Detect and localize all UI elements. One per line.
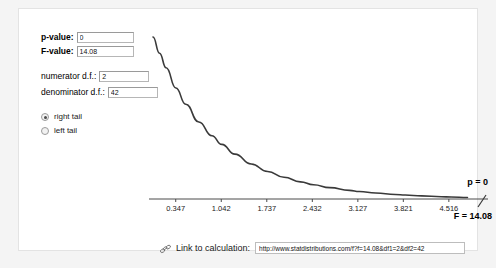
x-axis-ticks: 0.3471.0421.7372.4323.1273.8214.516: [166, 199, 458, 213]
calculation-url-input[interactable]: [255, 242, 465, 254]
f-value-output[interactable]: [77, 46, 134, 57]
f-value-row: F-value:: [41, 45, 156, 58]
p-value-annotation: p = 0: [467, 177, 488, 187]
degrees-of-freedom-block: numerator d.f.: denominator d.f.:: [41, 69, 156, 99]
numerator-df-input[interactable]: [99, 71, 149, 82]
numerator-df-label: numerator d.f.:: [41, 70, 96, 83]
tail-selector: right tail left tail: [41, 111, 156, 137]
x-axis-tick-label: 2.432: [303, 204, 322, 213]
denominator-df-label: denominator d.f.:: [41, 86, 105, 99]
f-value-label: F-value:: [41, 45, 74, 58]
x-axis-tick-label: 3.127: [348, 204, 367, 213]
f-distribution-calculator: p-value: F-value: numerator d.f.: denomi…: [0, 0, 496, 268]
radio-option-right-tail[interactable]: right tail: [41, 111, 156, 123]
p-value-output[interactable]: [77, 32, 134, 43]
plot-svg: 0.3471.0421.7372.4323.1273.8214.516 p = …: [144, 27, 494, 227]
distribution-plot: 0.3471.0421.7372.4323.1273.8214.516 p = …: [144, 27, 494, 227]
x-axis-tick-label: 1.042: [212, 204, 231, 213]
x-axis-tick-label: 3.821: [394, 204, 413, 213]
numerator-df-row: numerator d.f.:: [41, 69, 156, 83]
content-card: p-value: F-value: numerator d.f.: denomi…: [18, 8, 478, 251]
radio-left-tail-label: left tail: [54, 125, 77, 137]
radio-left-tail-icon[interactable]: [41, 127, 49, 135]
radio-right-tail-label: right tail: [54, 111, 82, 123]
link-icon: [159, 243, 172, 254]
x-axis-tick-label: 0.347: [166, 204, 185, 213]
radio-right-tail-icon[interactable]: [41, 113, 49, 121]
link-bar: Link to calculation:: [159, 242, 465, 254]
f-value-annotation: F = 14.08: [454, 211, 492, 221]
radio-option-left-tail[interactable]: left tail: [41, 125, 156, 137]
form-panel: p-value: F-value: numerator d.f.: denomi…: [41, 31, 156, 139]
p-value-label: p-value:: [41, 31, 74, 44]
x-axis-tick-label: 1.737: [257, 204, 276, 213]
density-curve: [153, 37, 467, 198]
p-value-row: p-value:: [41, 31, 156, 44]
link-label: Link to calculation:: [176, 243, 250, 253]
denominator-df-row: denominator d.f.:: [41, 85, 156, 99]
f-statistic-marker: [478, 195, 486, 207]
